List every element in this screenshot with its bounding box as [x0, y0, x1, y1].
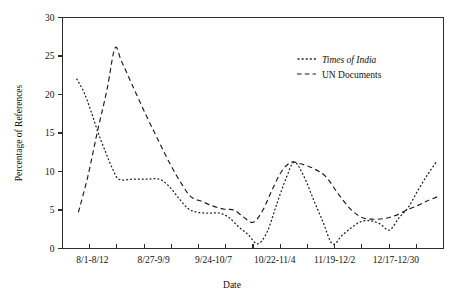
y-axis-title: Percentage of References: [14, 84, 24, 181]
series-group: [77, 47, 437, 244]
x-axis-title: Date: [223, 280, 241, 290]
chart-legend: Times of India UN Documents: [297, 55, 382, 80]
y-axis-ticks: [58, 18, 63, 249]
legend-label-un-documents: UN Documents: [322, 70, 382, 80]
x-tick-label: 8/1-8/12: [76, 255, 108, 265]
series-times-of-india: [77, 79, 437, 244]
x-tick-label: 11/19-12/2: [314, 255, 356, 265]
y-tick-label: 20: [45, 90, 55, 100]
y-tick-label: 10: [45, 167, 55, 177]
x-tick-label: 10/22-11/4: [254, 255, 296, 265]
x-axis-ticks: [90, 244, 417, 249]
x-axis-tick-labels: 8/1-8/128/27-9/99/24-10/710/22-11/411/19…: [76, 255, 419, 265]
y-axis-tick-labels: 302520151050: [45, 13, 55, 254]
series-un-documents: [78, 47, 437, 222]
y-tick-label: 0: [50, 244, 55, 254]
y-tick-label: 15: [45, 128, 55, 138]
y-tick-label: 25: [45, 51, 55, 61]
y-tick-label: 30: [45, 13, 55, 23]
legend-label-times-of-india: Times of India: [322, 55, 377, 65]
x-tick-label: 12/17-12/30: [373, 255, 420, 265]
chart-figure: 302520151050 8/1-8/128/27-9/99/24-10/710…: [0, 0, 460, 295]
x-tick-label: 8/27-9/9: [138, 255, 170, 265]
y-tick-label: 5: [50, 205, 55, 215]
x-tick-label: 9/24-10/7: [195, 255, 232, 265]
line-chart: 302520151050 8/1-8/128/27-9/99/24-10/710…: [0, 0, 460, 295]
plot-frame: [63, 18, 444, 249]
